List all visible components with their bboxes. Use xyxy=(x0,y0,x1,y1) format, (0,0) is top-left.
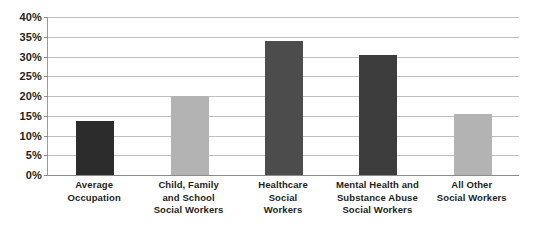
x-axis-category-label-line: Social Workers xyxy=(141,204,235,217)
bar xyxy=(265,41,303,175)
x-axis-category-label-line: Average xyxy=(47,179,141,192)
y-axis-tick-label: 35% xyxy=(19,31,42,42)
y-axis-tick-label: 15% xyxy=(19,110,42,121)
y-axis-tick-label: 5% xyxy=(26,150,42,161)
x-axis-category-label: Mental Health andSubstance AbuseSocial W… xyxy=(330,179,424,217)
x-axis-category-label-line: Mental Health and xyxy=(330,179,424,192)
y-axis-tick-label: 30% xyxy=(19,51,42,62)
axis-baseline xyxy=(48,175,519,176)
x-axis-category-label-line: Healthcare xyxy=(236,179,330,192)
y-axis-tick-label: 25% xyxy=(19,71,42,82)
x-axis-category-label-line: All Other xyxy=(425,179,519,192)
x-axis-category-label-line: and School xyxy=(141,192,235,205)
y-axis-tick-label: 20% xyxy=(19,91,42,102)
x-axis-category-labels: AverageOccupationChild, Familyand School… xyxy=(47,179,519,233)
bars xyxy=(48,17,519,175)
y-axis-tick-labels: 40%35%30%25%20%15%10%5%0% xyxy=(0,0,46,233)
bar xyxy=(171,96,209,175)
y-axis-tick-label: 10% xyxy=(19,130,42,141)
plot-area xyxy=(47,17,519,175)
x-axis-category-label-line: Substance Abuse xyxy=(330,192,424,205)
y-axis-tick-label: 40% xyxy=(19,12,42,23)
x-axis-category-label: AverageOccupation xyxy=(47,179,141,204)
x-axis-category-label-line: Social Workers xyxy=(425,192,519,205)
x-axis-category-label-line: Workers xyxy=(236,204,330,217)
x-axis-category-label: HealthcareSocialWorkers xyxy=(236,179,330,217)
bar xyxy=(76,121,114,176)
y-axis-tick-mark xyxy=(44,175,48,176)
x-axis-category-label-line: Social Workers xyxy=(330,204,424,217)
x-axis-category-label: Child, Familyand SchoolSocial Workers xyxy=(141,179,235,217)
x-axis-category-label-line: Occupation xyxy=(47,192,141,205)
bar xyxy=(454,114,492,175)
x-axis-category-label-line: Social xyxy=(236,192,330,205)
bar-chart: 40%35%30%25%20%15%10%5%0% AverageOccupat… xyxy=(0,0,533,233)
x-axis-category-label: All OtherSocial Workers xyxy=(425,179,519,204)
bar xyxy=(359,55,397,175)
y-axis-tick-label: 0% xyxy=(26,170,42,181)
x-axis-category-label-line: Child, Family xyxy=(141,179,235,192)
